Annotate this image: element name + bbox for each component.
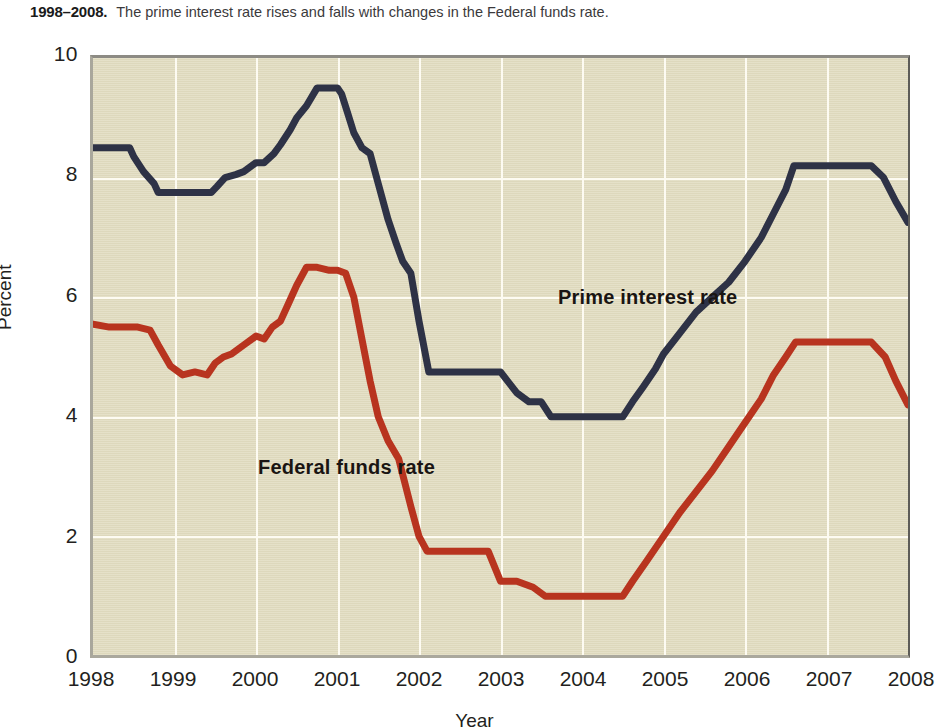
x-tick-2001: 2001 — [296, 667, 378, 691]
x-axis-title: Year — [0, 710, 949, 728]
y-tick-10: 10 — [40, 42, 78, 66]
x-tick-2004: 2004 — [542, 667, 624, 691]
y-tick-6: 6 — [40, 283, 78, 307]
prime-interest-rate-label: Prime interest rate — [558, 286, 737, 309]
x-tick-2002: 2002 — [378, 667, 460, 691]
series-annotations: Prime interest rate Federal funds rate — [93, 58, 908, 655]
x-tick-1998: 1998 — [50, 667, 132, 691]
federal-funds-rate-label: Federal funds rate — [258, 456, 435, 479]
x-tick-1999: 1999 — [132, 667, 214, 691]
y-tick-2: 2 — [40, 524, 78, 548]
x-tick-2007: 2007 — [788, 667, 870, 691]
y-tick-0: 0 — [40, 644, 78, 668]
plot-area: Prime interest rate Federal funds rate — [90, 55, 910, 658]
x-tick-2008: 2008 — [870, 667, 949, 691]
x-tick-2006: 2006 — [706, 667, 788, 691]
y-axis-title: Percent — [0, 265, 16, 330]
x-tick-2005: 2005 — [624, 667, 706, 691]
figure-caption: 1998–2008.The prime interest rate rises … — [30, 2, 930, 22]
y-tick-8: 8 — [40, 162, 78, 186]
x-tick-2000: 2000 — [214, 667, 296, 691]
x-tick-2003: 2003 — [460, 667, 542, 691]
caption-year-range: 1998–2008. — [30, 3, 107, 20]
caption-text: The prime interest rate rises and falls … — [116, 4, 608, 20]
chart-figure: Percent 10 8 6 4 2 0 1998 1999 2000 2001… — [0, 30, 949, 728]
y-tick-4: 4 — [40, 403, 78, 427]
